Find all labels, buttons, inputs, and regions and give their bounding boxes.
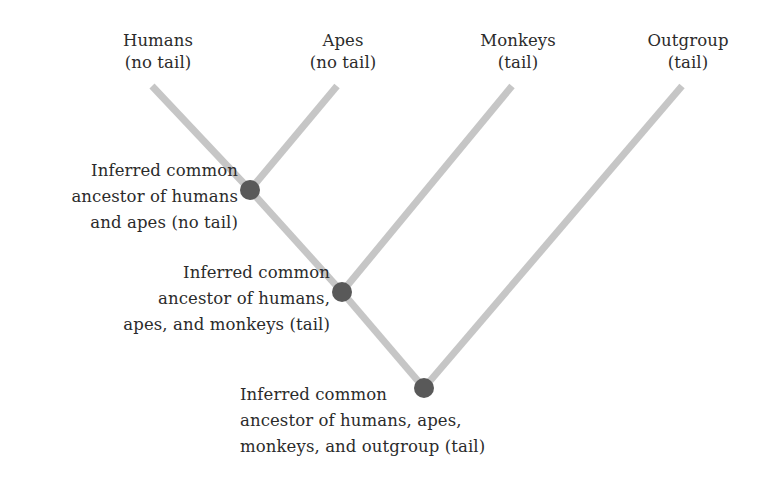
tip-label-trait: (no tail) [123,52,193,74]
annotation-line: Inferred common [123,260,330,286]
phylogenetic-tree-figure: Humans(no tail)Apes(no tail)Monkeys(tail… [0,0,782,487]
annotation-line: Inferred common [240,382,485,408]
tip-label-name: Humans [123,30,193,52]
tip-label-trait: (tail) [647,52,728,74]
annotation-line: monkeys, and outgroup (tail) [240,434,485,460]
annotation-line: ancestor of humans [71,184,238,210]
tip-label-outgroup: Outgroup(tail) [647,30,728,74]
internal-node-ancestor-humans-apes-monkeys [332,282,352,302]
tip-label-monkeys: Monkeys(tail) [480,30,556,74]
tree-branch-branch-outgroup [424,86,682,388]
annotation-line: ancestor of humans, apes, [240,408,485,434]
tip-label-trait: (no tail) [310,52,377,74]
branch-layer [152,86,682,388]
tip-label-name: Monkeys [480,30,556,52]
tree-branch-branch-apes [250,86,337,190]
annotation-line: and apes (no tail) [71,210,238,236]
tip-label-humans: Humans(no tail) [123,30,193,74]
node-annotation-ancestor-humans-apes-monkeys: Inferred commonancestor of humans,apes, … [123,260,330,338]
tip-label-apes: Apes(no tail) [310,30,377,74]
tree-branch-branch-monkeys [342,86,512,292]
tip-label-trait: (tail) [480,52,556,74]
tree-branch-branch-node2-to-node3 [342,292,424,388]
tip-label-name: Outgroup [647,30,728,52]
annotation-line: ancestor of humans, [123,286,330,312]
node-annotation-ancestor-humans-apes: Inferred commonancestor of humansand ape… [71,158,238,236]
tip-label-name: Apes [310,30,377,52]
node-annotation-ancestor-all-root: Inferred commonancestor of humans, apes,… [240,382,485,460]
annotation-line: Inferred common [71,158,238,184]
annotation-line: apes, and monkeys (tail) [123,312,330,338]
internal-node-ancestor-humans-apes [240,180,260,200]
